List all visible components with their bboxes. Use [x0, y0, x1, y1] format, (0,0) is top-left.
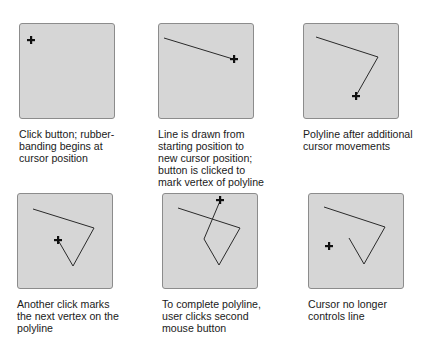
crosshair-cursor-icon: [325, 242, 333, 250]
caption-line: starting position to: [158, 140, 288, 152]
polyline-path: [324, 207, 385, 264]
crosshair-cursor-icon: [352, 92, 360, 100]
caption-line: button is clicked to: [158, 164, 288, 176]
caption-line: mark vertex of polyline: [158, 176, 288, 188]
canvas-drawing: [162, 193, 260, 291]
crosshair-cursor-icon: [54, 236, 62, 244]
caption-line: polyline: [17, 322, 147, 334]
caption-line: Click button; rubber-: [19, 128, 149, 140]
caption-line: the next vertex on the: [17, 310, 147, 322]
canvas-drawing: [158, 23, 256, 121]
canvas-box: [19, 23, 115, 119]
caption: Line is drawn fromstarting position tone…: [158, 128, 288, 188]
canvas-drawing: [19, 23, 117, 121]
polyline-path: [33, 209, 94, 266]
caption-line: Line is drawn from: [158, 128, 288, 140]
canvas-drawing: [303, 23, 401, 121]
canvas-box: [17, 193, 113, 289]
canvas-drawing: [308, 193, 406, 291]
caption: To complete polyline,user clicks secondm…: [162, 298, 292, 334]
canvas-box: [303, 23, 399, 119]
canvas-box: [308, 193, 404, 289]
crosshair-cursor-icon: [27, 36, 35, 44]
polyline-path: [178, 201, 240, 265]
caption-line: cursor movements: [303, 140, 425, 152]
polyline-path: [316, 37, 378, 94]
caption-line: Cursor no longer: [308, 298, 425, 310]
caption-line: mouse button: [162, 322, 292, 334]
caption: Cursor no longercontrols line: [308, 298, 425, 322]
crosshair-cursor-icon: [216, 196, 224, 204]
canvas-box: [162, 193, 258, 289]
caption-line: controls line: [308, 310, 425, 322]
caption-line: To complete polyline,: [162, 298, 292, 310]
caption-line: Another click marks: [17, 298, 147, 310]
caption: Polyline after additionalcursor movement…: [303, 128, 425, 152]
caption-line: Polyline after additional: [303, 128, 425, 140]
caption-line: new cursor position;: [158, 152, 288, 164]
caption: Click button; rubber-banding begins atcu…: [19, 128, 149, 164]
canvas-drawing: [17, 193, 115, 291]
caption-line: user clicks second: [162, 310, 292, 322]
canvas-box: [158, 23, 254, 119]
caption-line: cursor position: [19, 152, 149, 164]
caption-line: banding begins at: [19, 140, 149, 152]
polyline-path: [164, 38, 233, 59]
crosshair-cursor-icon: [230, 55, 238, 63]
caption: Another click marksthe next vertex on th…: [17, 298, 147, 334]
